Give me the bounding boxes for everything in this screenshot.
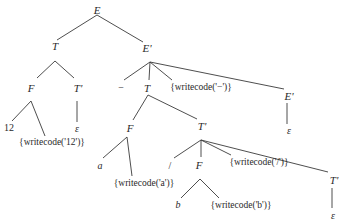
semantic-action-node: {writecode('b')} — [210, 201, 271, 211]
nonterminal-node: T' — [198, 121, 206, 132]
tree-edge — [201, 140, 231, 155]
tree-edge — [55, 61, 74, 78]
nonterminal-node: T — [52, 41, 58, 52]
nonterminal-node: F — [196, 160, 203, 171]
tree-edge — [174, 140, 201, 158]
nonterminal-node: T' — [74, 83, 82, 94]
nonterminal-node: T — [144, 83, 150, 94]
epsilon-node: ε — [75, 124, 79, 134]
epsilon-node: ε — [331, 211, 335, 221]
tree-edge — [149, 62, 150, 80]
nonterminal-node: F — [28, 83, 35, 94]
nonterminal-node: E' — [284, 91, 293, 102]
nonterminal-node: E — [94, 5, 101, 16]
terminal-node: a — [98, 161, 103, 171]
nonterminal-node: E' — [142, 43, 151, 54]
tree-edge — [148, 95, 197, 119]
semantic-action-node: {writecode('−')} — [170, 83, 232, 93]
tree-edge — [127, 137, 132, 176]
tree-edge — [31, 101, 45, 136]
tree-edge — [103, 137, 127, 158]
tree-edge — [133, 95, 148, 120]
semantic-action-node: {writecode('/')} — [230, 158, 289, 168]
parse-tree-edges — [0, 0, 343, 223]
tree-edge — [37, 61, 55, 78]
tree-edge — [12, 101, 31, 121]
terminal-node: 12 — [4, 123, 14, 133]
nonterminal-node: T' — [330, 175, 338, 186]
terminal-node: − — [118, 83, 124, 93]
nonterminal-node: F — [127, 123, 134, 134]
epsilon-node: ε — [287, 126, 291, 136]
tree-edge — [124, 62, 150, 80]
tree-edge — [150, 62, 172, 80]
tree-edge — [181, 179, 200, 198]
terminal-node: / — [169, 161, 172, 171]
semantic-action-node: {writecode('12')} — [19, 138, 85, 148]
terminal-node: b — [176, 200, 181, 210]
semantic-action-node: {writecode('a')} — [114, 179, 175, 189]
tree-edge — [57, 15, 97, 40]
tree-edge — [200, 179, 219, 198]
tree-edge — [97, 15, 143, 42]
